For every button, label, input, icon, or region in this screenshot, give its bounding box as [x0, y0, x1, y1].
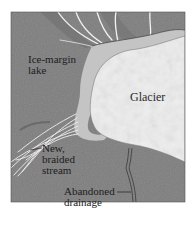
braided-stream-label: New, braided stream [42, 143, 75, 176]
abandoned-drainage-label: Abandoned drainage [64, 186, 115, 208]
glacier-label: Glacier [130, 92, 165, 103]
glacial-drainage-figure: Ice-margin lake Glacier New, braided str… [0, 0, 195, 226]
ice-margin-lake-label: Ice-margin lake [28, 54, 76, 76]
